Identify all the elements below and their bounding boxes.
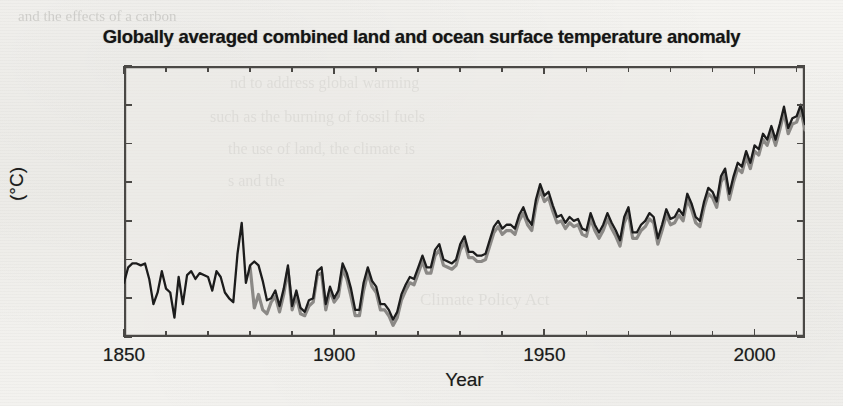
x-axis-label: Year [124, 369, 805, 391]
y-axis-tick [797, 336, 805, 338]
x-axis-tick [207, 66, 209, 72]
x-axis-tick [712, 331, 714, 337]
x-axis-tick [543, 66, 545, 74]
x-axis-tick [249, 331, 251, 337]
x-axis-tick [501, 66, 503, 72]
y-axis-tick [124, 336, 132, 338]
x-axis-tick [754, 66, 756, 74]
x-axis-tick [291, 66, 293, 72]
y-axis-tick [797, 181, 805, 183]
x-axis-tick [712, 66, 714, 72]
plot-area [124, 66, 805, 337]
y-axis-tick [124, 259, 132, 261]
x-axis-tick [754, 329, 756, 337]
x-axis-tick [375, 66, 377, 72]
x-axis-tick [207, 331, 209, 337]
x-axis-tick [670, 66, 672, 72]
x-axis-tick [333, 329, 335, 337]
x-axis-tick [628, 331, 630, 337]
x-tick-label: 1950 [523, 344, 565, 366]
x-axis-tick [375, 331, 377, 337]
chart-title: Globally averaged combined land and ocea… [0, 26, 843, 48]
x-axis-tick [165, 66, 167, 72]
x-axis-tick [459, 331, 461, 337]
x-tick-label: 2000 [733, 344, 775, 366]
x-tick-label: 1850 [103, 344, 145, 366]
y-axis-label: (°C) [6, 167, 28, 201]
x-axis-tick [291, 331, 293, 337]
data-series-layer [124, 66, 805, 337]
x-axis-tick [333, 66, 335, 74]
series-line-black [124, 105, 805, 320]
x-axis-tick [586, 66, 588, 72]
x-axis-tick [501, 331, 503, 337]
y-axis-tick [797, 143, 805, 145]
y-axis-tick [124, 181, 132, 183]
x-axis-tick [543, 329, 545, 337]
x-axis-tick [628, 66, 630, 72]
x-axis-tick [249, 66, 251, 72]
x-axis-tick [459, 66, 461, 72]
y-axis-tick [797, 220, 805, 222]
y-axis-tick [797, 297, 805, 299]
y-axis-tick [124, 297, 132, 299]
y-axis-tick [797, 259, 805, 261]
y-axis-tick [124, 104, 132, 106]
x-tick-label: 1900 [313, 344, 355, 366]
x-axis-tick [417, 331, 419, 337]
x-axis-tick [417, 66, 419, 72]
y-axis-tick [124, 143, 132, 145]
x-axis-tick [123, 66, 125, 74]
x-axis-tick [670, 331, 672, 337]
chart-figure: Globally averaged combined land and ocea… [0, 0, 843, 406]
y-axis-tick [797, 65, 805, 67]
x-axis-tick [586, 331, 588, 337]
y-axis-tick [124, 65, 132, 67]
x-axis-tick [165, 331, 167, 337]
y-axis-tick [797, 104, 805, 106]
y-axis-tick [124, 220, 132, 222]
